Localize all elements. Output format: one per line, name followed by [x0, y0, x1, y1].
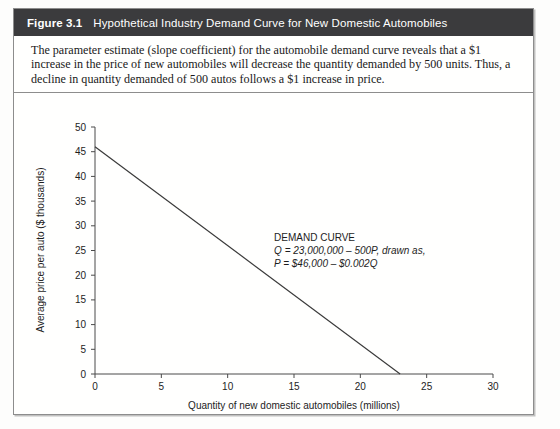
y-tick-label: 15 [75, 294, 87, 305]
x-tick-label: 20 [355, 381, 367, 392]
y-tick-label: 40 [75, 171, 87, 182]
x-tick-label: 5 [159, 381, 165, 392]
x-tick-label: 25 [421, 381, 433, 392]
x-tick-label: 10 [222, 381, 234, 392]
figure-title-label: Hypothetical Industry Demand Curve for N… [93, 17, 447, 29]
figure-caption: The parameter estimate (slope coefficien… [14, 36, 533, 93]
x-tick-label: 15 [288, 381, 300, 392]
x-axis-title: Quantity of new domestic automobiles (mi… [188, 400, 400, 411]
annotation-line: Q = 23,000,000 – 500P, drawn as, [274, 245, 425, 256]
y-tick-label: 10 [75, 319, 87, 330]
y-tick-label: 35 [75, 196, 87, 207]
x-tick-label: 30 [487, 381, 499, 392]
annotation-line: DEMAND CURVE [274, 232, 355, 243]
y-tick-label: 0 [80, 369, 86, 380]
y-tick-label: 45 [75, 146, 87, 157]
y-tick-label: 50 [75, 122, 87, 133]
figure-number-label: Figure 3.1 [27, 17, 82, 29]
figure-header-bar: Figure 3.1 Hypothetical Industry Demand … [14, 9, 533, 36]
y-tick-label: 25 [75, 245, 87, 256]
figure-container: Figure 3.1 Hypothetical Industry Demand … [13, 8, 534, 415]
demand-curve-chart: 05101520253035404550 051015202530 DEMAND… [14, 93, 533, 415]
annotation-line: P = $46,000 – $0.002Q [274, 258, 378, 269]
y-tick-label: 20 [75, 270, 87, 281]
chart-plot-area: 05101520253035404550 051015202530 DEMAND… [14, 93, 533, 415]
x-axis-ticks: 051015202530 [92, 374, 499, 392]
y-tick-label: 5 [80, 344, 86, 355]
y-axis-ticks: 05101520253035404550 [75, 122, 95, 380]
chart-annotations: DEMAND CURVEQ = 23,000,000 – 500P, drawn… [274, 232, 425, 269]
x-tick-label: 0 [92, 381, 98, 392]
y-axis-title: Average price per auto ($ thousands) [35, 168, 46, 333]
y-tick-label: 30 [75, 220, 87, 231]
